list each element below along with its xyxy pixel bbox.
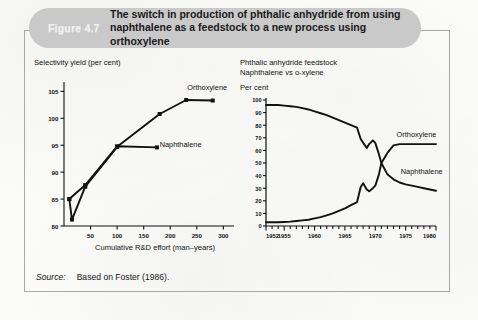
chart-right-svg: 0102030405060708090100195219551960196519… xyxy=(240,58,450,258)
left-marker xyxy=(70,218,74,222)
chart-feedstock-share: Phthalic anhydride feedstock Naphthalene… xyxy=(240,58,450,258)
right-y-tick-label: 0 xyxy=(258,223,261,229)
right-series-naphthalene xyxy=(266,105,436,191)
figure-title-line-1: The switch in production of phthalic anh… xyxy=(110,8,421,22)
source-note: Source:Based on Foster (1986). xyxy=(36,272,169,282)
right-x-tick-label: 1975 xyxy=(399,233,413,239)
left-marker xyxy=(115,145,119,149)
left-x-tick-label: 250 xyxy=(192,232,203,239)
left-x-tick-label: 300 xyxy=(218,232,229,239)
left-marker xyxy=(184,98,188,102)
left-y-tick-label: 80 xyxy=(52,223,59,230)
left-x-tick-label: 100 xyxy=(112,232,123,239)
right-x-tick-label: 1960 xyxy=(308,233,321,239)
right-y-tick-label: 10 xyxy=(255,211,261,217)
left-y-tick-label: 105 xyxy=(48,88,59,95)
figure-badge: Figure 4.7 xyxy=(48,22,104,34)
right-y-tick-label: 30 xyxy=(255,186,261,192)
left-y-tick-label: 90 xyxy=(52,169,59,176)
left-y-tick-label: 100 xyxy=(48,115,59,122)
charts-container: Selectivity yield (per cent) 80859095100… xyxy=(24,58,450,258)
right-x-tick-label: 1980 xyxy=(423,233,436,239)
left-marker xyxy=(155,145,159,149)
left-x-tick-label: 200 xyxy=(165,232,176,239)
left-series-orthoxylene xyxy=(69,100,212,220)
right-y-tick-label: 20 xyxy=(255,198,261,204)
left-marker xyxy=(158,112,162,116)
left-x-tick-label: 150 xyxy=(139,232,150,239)
right-x-tick-label: 1970 xyxy=(369,233,382,239)
right-y-tick-label: 60 xyxy=(255,148,261,154)
left-marker xyxy=(67,197,71,201)
left-series-label-naphthalene: Naphthalene xyxy=(160,140,202,149)
chart-left-svg: 8085909510010550100150200250300Cumulativ… xyxy=(34,58,239,258)
left-y-tick-label: 85 xyxy=(52,196,59,203)
left-y-tick-label: 95 xyxy=(52,142,59,149)
chart-selectivity-yield: Selectivity yield (per cent) 80859095100… xyxy=(34,58,239,258)
right-series-orthoxylene xyxy=(266,144,436,222)
right-y-tick-label: 70 xyxy=(255,135,261,141)
figure-title-line-2: naphthalene as a feedstock to a new proc… xyxy=(110,21,421,48)
right-x-tick-label: 1965 xyxy=(338,233,352,239)
left-marker xyxy=(211,99,215,103)
left-series-label-orthoxylene: Orthoxylene xyxy=(187,83,227,92)
chart-left-plot: 8085909510010550100150200250300Cumulativ… xyxy=(34,58,239,262)
left-x-tick-label: 50 xyxy=(87,232,94,239)
chart-right-plot: 0102030405060708090100195219551960196519… xyxy=(240,58,450,262)
left-x-axis-label: Cumulative R&D effort (man–years) xyxy=(95,243,216,252)
source-text: Based on Foster (1986). xyxy=(77,272,170,282)
right-y-tick-label: 100 xyxy=(252,97,261,103)
figure-banner: Figure 4.7 The switch in production of p… xyxy=(29,8,421,48)
right-y-tick-label: 40 xyxy=(255,173,261,179)
right-series-label-naphthalene: Naphthalene xyxy=(401,167,443,176)
right-series-label-orthoxylene: Orthoxylene xyxy=(397,130,437,139)
right-y-tick-label: 90 xyxy=(255,110,261,116)
right-x-tick-label: 1955 xyxy=(278,233,292,239)
source-label: Source: xyxy=(36,272,66,282)
right-y-tick-label: 50 xyxy=(255,160,261,166)
left-marker xyxy=(83,185,87,189)
figure-title: The switch in production of phthalic anh… xyxy=(110,8,421,49)
right-y-tick-label: 80 xyxy=(255,123,261,129)
